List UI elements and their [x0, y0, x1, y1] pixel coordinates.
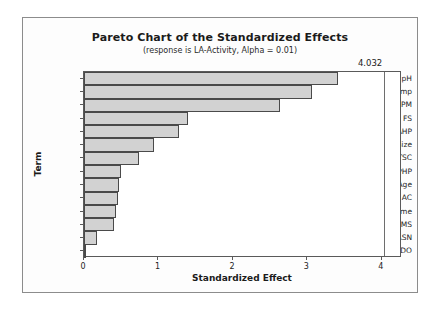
bar-inn-size	[84, 138, 154, 151]
chart-subtitle: (response is LA-Activity, Alpha = 0.01)	[23, 46, 417, 55]
bar-row	[84, 245, 400, 258]
x-tick-label: 4	[378, 262, 383, 271]
x-tick-label: 2	[229, 262, 234, 271]
reference-line	[384, 72, 385, 256]
y-axis-title: Term	[33, 152, 43, 177]
bar-row	[84, 152, 400, 165]
plot-area	[83, 71, 401, 257]
bar-rpm	[84, 99, 280, 112]
bar-row	[84, 231, 400, 244]
pareto-chart-figure: Pareto Chart of the Standardized Effects…	[22, 17, 418, 293]
bar-ph	[84, 72, 338, 85]
bar-row	[84, 72, 400, 85]
bar-ms	[84, 218, 114, 231]
bar-temp	[84, 85, 312, 98]
chart-title: Pareto Chart of the Standardized Effects	[23, 31, 417, 44]
x-tick-label: 0	[80, 262, 85, 271]
bar-l-asn	[84, 231, 97, 244]
bar-row	[84, 178, 400, 191]
bar-row	[84, 125, 400, 138]
bar-row	[84, 205, 400, 218]
bar-row	[84, 85, 400, 98]
bar-row	[84, 112, 400, 125]
bar-inn-age	[84, 178, 119, 191]
bar-ac	[84, 192, 118, 205]
reference-line-label: 4.032	[358, 58, 385, 68]
bar-dahp	[84, 125, 179, 138]
bar-tsc	[84, 152, 139, 165]
bar-fs	[84, 112, 188, 125]
bar-row	[84, 218, 400, 231]
bar-dphp	[84, 165, 121, 178]
bar-time	[84, 205, 116, 218]
x-tick-label: 3	[304, 262, 309, 271]
bar-do	[84, 245, 86, 258]
bar-row	[84, 99, 400, 112]
bar-series	[84, 72, 400, 258]
bar-row	[84, 138, 400, 151]
x-axis-title: Standardized Effect	[83, 273, 401, 283]
x-tick-label: 1	[155, 262, 160, 271]
bar-row	[84, 165, 400, 178]
bar-row	[84, 192, 400, 205]
